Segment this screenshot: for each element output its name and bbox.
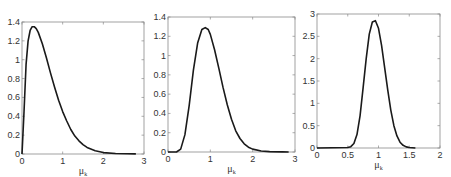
chart-2-density: 00.20.40.60.811.21.40123μk — [153, 12, 297, 175]
density-curve — [317, 21, 415, 148]
x-tick-label: 1.5 — [403, 150, 416, 160]
y-tick-label: 3 — [310, 9, 315, 19]
x-axis-label: μk — [374, 159, 382, 171]
x-tick-label: 1 — [60, 156, 65, 166]
y-tick-label: 0.4 — [7, 111, 20, 121]
chart-3-density: 00.511.522.5300.511.52μk — [302, 9, 442, 171]
plot-frame — [22, 22, 144, 154]
density-curve — [22, 27, 136, 154]
plot-frame — [168, 17, 295, 152]
y-tick-label: 0.5 — [302, 121, 315, 131]
y-tick-label: 0.8 — [153, 70, 166, 80]
x-tick-label: 3 — [292, 154, 297, 164]
y-tick-label: 1.2 — [7, 36, 20, 46]
y-tick-label: 0.6 — [7, 92, 20, 102]
x-tick-label: 0 — [165, 154, 170, 164]
y-tick-label: 0.2 — [153, 128, 166, 138]
plot-frame — [317, 14, 440, 148]
y-tick-label: 2.5 — [302, 31, 315, 41]
x-tick-label: 2 — [437, 150, 442, 160]
y-tick-label: 0.2 — [7, 130, 20, 140]
x-axis-label: μk — [227, 163, 235, 175]
y-tick-label: 1 — [310, 98, 315, 108]
y-tick-label: 0.4 — [153, 108, 166, 118]
density-curve — [168, 28, 289, 152]
x-tick-label: 0 — [19, 156, 24, 166]
y-tick-label: 0.6 — [153, 89, 166, 99]
y-tick-label: 1.5 — [302, 76, 315, 86]
y-tick-label: 1.4 — [153, 12, 166, 22]
figure-three-density-plots: 00.20.40.60.811.21.40123μk 00.20.40.60.8… — [0, 0, 451, 177]
x-tick-label: 2 — [250, 154, 255, 164]
y-tick-label: 1 — [15, 55, 20, 65]
y-tick-label: 2 — [310, 54, 315, 64]
x-tick-label: 3 — [141, 156, 146, 166]
x-tick-label: 1 — [208, 154, 213, 164]
chart-1-density: 00.20.40.60.811.21.40123μk — [7, 17, 146, 177]
x-tick-label: 0.5 — [341, 150, 354, 160]
x-tick-label: 2 — [101, 156, 106, 166]
y-tick-label: 1.4 — [7, 17, 20, 27]
x-axis-label: μk — [79, 165, 87, 177]
y-tick-label: 0.8 — [7, 74, 20, 84]
y-tick-label: 1 — [161, 51, 166, 61]
y-tick-label: 1.2 — [153, 31, 166, 41]
x-tick-label: 0 — [314, 150, 319, 160]
